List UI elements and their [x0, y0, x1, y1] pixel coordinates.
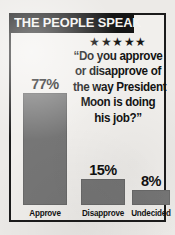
bar-label-disapprove: Disapprove	[76, 205, 129, 217]
bar-value-undecided: 8%	[132, 174, 170, 191]
bar-undecided	[132, 190, 170, 205]
bar-value-approve: 77%	[23, 77, 67, 94]
bar-disapprove	[81, 179, 125, 205]
bar-label-undecided: Undecided	[127, 205, 175, 217]
bar-group-disapprove: 15% Disapprove	[81, 179, 125, 205]
bar-group-undecided: 8% Undecided	[132, 190, 170, 205]
bar-value-disapprove: 15%	[81, 163, 125, 180]
bar-approve	[23, 93, 67, 205]
bar-label-approve: Approve	[18, 205, 71, 217]
poll-infographic: THE PEOPLE SPEAK ★★★★★ “Do you approve o…	[0, 0, 175, 235]
bar-group-approve: 77% Approve	[23, 93, 67, 205]
bar-chart: 77% Approve 15% Disapprove 8% Undecided	[9, 13, 166, 222]
